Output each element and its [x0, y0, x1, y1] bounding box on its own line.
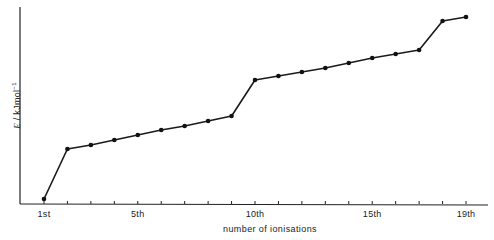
- data-point: [440, 19, 445, 24]
- x-axis-ticks: [44, 201, 466, 204]
- data-point: [300, 70, 305, 75]
- data-point: [346, 61, 351, 66]
- x-tick-label: 19th: [457, 209, 476, 219]
- x-axis: [20, 204, 488, 205]
- data-point: [182, 124, 187, 129]
- data-point: [159, 128, 164, 133]
- data-point: [323, 66, 328, 71]
- data-point: [253, 78, 258, 83]
- x-tick-label: 10th: [246, 209, 265, 219]
- y-axis-title: E / kJmol−1: [11, 66, 22, 146]
- data-point: [276, 74, 281, 79]
- x-tick-label: 5th: [131, 209, 144, 219]
- x-axis-title: number of ionisations: [0, 224, 494, 234]
- data-point: [42, 197, 47, 202]
- data-point: [417, 48, 422, 53]
- data-line: [44, 17, 466, 199]
- data-point: [135, 133, 140, 138]
- y-axis-unit: / kJmol: [12, 90, 22, 123]
- x-tick-label: 1st: [38, 209, 51, 219]
- data-point: [112, 138, 117, 143]
- data-point: [89, 143, 94, 148]
- y-axis-unit-exponent: −1: [11, 82, 17, 89]
- x-tick-label: 15th: [363, 209, 382, 219]
- data-point: [65, 147, 70, 152]
- data-point: [393, 52, 398, 57]
- ionisation-energy-chart: [0, 0, 494, 240]
- data-points: [42, 15, 469, 202]
- y-axis-symbol: E: [12, 123, 22, 129]
- data-point: [370, 56, 375, 61]
- data-point: [206, 119, 211, 124]
- data-point: [229, 114, 234, 119]
- data-point: [464, 15, 469, 20]
